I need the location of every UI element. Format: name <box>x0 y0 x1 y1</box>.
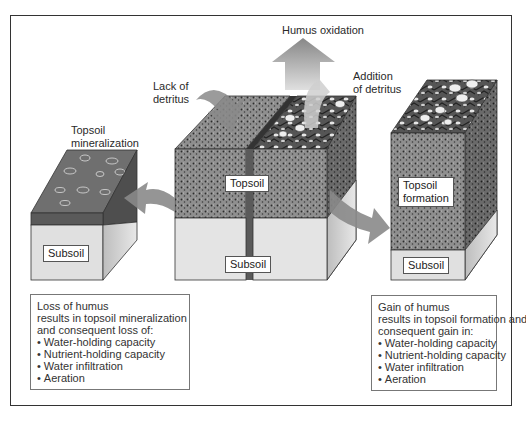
loss-bullet: Water infiltration <box>37 360 183 372</box>
center-topsoil-tag: Topsoil <box>225 175 269 192</box>
topsoil-mineralization-label: Topsoil mineralization <box>71 124 139 150</box>
humus-oxidation-label: Humus oxidation <box>282 24 364 37</box>
gain-line-1: Gain of humus <box>378 301 490 313</box>
loss-bullet: Aeration <box>37 372 183 384</box>
lack-of-detritus-line1: Lack of <box>153 80 189 93</box>
addition-of-detritus-line1: Addition <box>353 70 401 83</box>
gain-of-humus-box: Gain of humus results in topsoil formati… <box>371 295 497 391</box>
gain-bullet: Nutrient-holding capacity <box>378 349 490 361</box>
gain-line-2: results in topsoil formation and <box>378 313 490 325</box>
gain-bullet-list: Water-holding capacity Nutrient-holding … <box>378 337 490 385</box>
center-subsoil-tag: Subsoil <box>225 256 271 273</box>
topsoil-formation-line1: Topsoil <box>403 179 449 192</box>
right-subsoil-tag: Subsoil <box>403 257 449 274</box>
gain-bullet: Water infiltration <box>378 361 490 373</box>
loss-bullet-list: Water-holding capacity Nutrient-holding … <box>37 336 183 384</box>
topsoil-formation-line2: formation <box>403 192 449 205</box>
gain-line-3: consequent gain in: <box>378 325 490 337</box>
topsoil-mineralization-line2: mineralization <box>71 137 139 150</box>
humus-oxidation-arrow <box>272 38 335 90</box>
loss-line-3: and consequent loss of: <box>37 324 183 336</box>
gain-bullet: Aeration <box>378 373 490 385</box>
loss-bullet: Nutrient-holding capacity <box>37 348 183 360</box>
right-topsoil-formation-tag: Topsoil formation <box>398 177 454 207</box>
left-subsoil-tag: Subsoil <box>43 245 89 262</box>
gain-bullet: Water-holding capacity <box>378 337 490 349</box>
lack-of-detritus-line2: detritus <box>153 93 189 106</box>
loss-of-humus-box: Loss of humus results in topsoil mineral… <box>30 294 190 390</box>
topsoil-mineralization-line1: Topsoil <box>71 124 139 137</box>
loss-bullet: Water-holding capacity <box>37 336 183 348</box>
loss-line-2: results in topsoil mineralization <box>37 312 183 324</box>
addition-of-detritus-label: Addition of detritus <box>353 70 401 96</box>
addition-of-detritus-line2: of detritus <box>353 83 401 96</box>
loss-line-1: Loss of humus <box>37 300 183 312</box>
lack-of-detritus-label: Lack of detritus <box>153 80 189 106</box>
